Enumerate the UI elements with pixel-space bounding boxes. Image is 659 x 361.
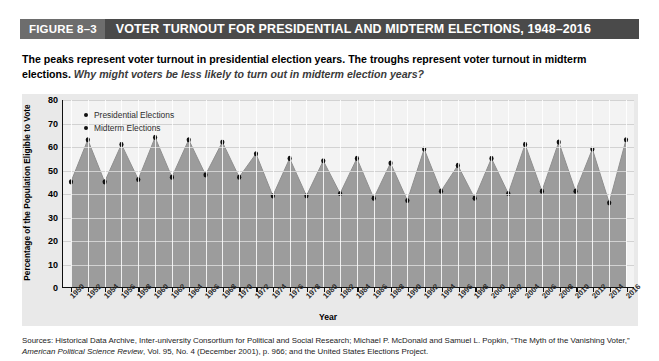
- gridline-50: [63, 171, 634, 172]
- vgridline-1994: [441, 100, 442, 287]
- y-tick-10: 10: [36, 260, 58, 270]
- y-axis-tick-labels: 80706050403020100: [36, 94, 58, 290]
- vgridline-2002: [508, 100, 509, 287]
- figure-header-bar: FIGURE 8–3 VOTER TURNOUT FOR PRESIDENTIA…: [20, 19, 639, 39]
- vgridline-2016: [626, 100, 627, 287]
- chart-legend: Presidential ElectionsMidterm Elections: [84, 108, 174, 134]
- figure-caption: The peaks represent voter turnout in pre…: [22, 52, 636, 82]
- vgridline-1966: [206, 100, 207, 287]
- gridline-10: [63, 265, 634, 266]
- y-tick-80: 80: [36, 95, 58, 105]
- figure-title: VOTER TURNOUT FOR PRESIDENTIAL AND MIDTE…: [105, 19, 591, 39]
- y-tick-60: 60: [36, 142, 58, 152]
- caption-question: Why might voters be less likely to turn …: [74, 68, 424, 80]
- legend-item-midterm: Midterm Elections: [84, 121, 174, 134]
- vgridline-1950: [71, 100, 72, 287]
- source-suffix: , Vol. 95, No. 4 (December 2001), p. 966…: [143, 347, 428, 356]
- y-tick-50: 50: [36, 166, 58, 176]
- source-journal: American Political Science Review: [22, 347, 143, 356]
- vgridline-1976: [290, 100, 291, 287]
- figure-page: FIGURE 8–3 VOTER TURNOUT FOR PRESIDENTIA…: [0, 0, 659, 361]
- vgridline-1998: [475, 100, 476, 287]
- chart-container: Percentage of the Population Eligible to…: [22, 94, 638, 326]
- legend-dot-icon: [84, 126, 88, 130]
- legend-item-presidential: Presidential Elections: [84, 108, 174, 121]
- vgridline-1972: [256, 100, 257, 287]
- vgridline-2008: [559, 100, 560, 287]
- vgridline-1968: [222, 100, 223, 287]
- y-axis-title-text: Percentage of the Population Eligible to…: [23, 104, 32, 280]
- vgridline-1974: [273, 100, 274, 287]
- legend-dot-icon: [84, 113, 88, 117]
- y-tick-40: 40: [36, 189, 58, 199]
- gridline-30: [63, 218, 634, 219]
- y-tick-0: 0: [36, 283, 58, 293]
- y-tick-70: 70: [36, 119, 58, 129]
- vgridline-2004: [525, 100, 526, 287]
- vgridline-2006: [542, 100, 543, 287]
- vgridline-1984: [357, 100, 358, 287]
- source-note: Sources: Historical Data Archive, Inter-…: [22, 335, 638, 357]
- y-axis-title: Percentage of the Population Eligible to…: [20, 94, 34, 290]
- y-tick-20: 20: [36, 236, 58, 246]
- vgridline-1992: [424, 100, 425, 287]
- vgridline-1988: [391, 100, 392, 287]
- vgridline-2000: [491, 100, 492, 287]
- vgridline-2012: [592, 100, 593, 287]
- vgridline-1970: [239, 100, 240, 287]
- vgridline-1982: [340, 100, 341, 287]
- legend-label: Midterm Elections: [94, 123, 161, 133]
- vgridline-1980: [323, 100, 324, 287]
- figure-number-tag: FIGURE 8–3: [20, 19, 105, 39]
- vgridline-1978: [306, 100, 307, 287]
- vgridline-1986: [374, 100, 375, 287]
- vgridline-1996: [458, 100, 459, 287]
- vgridline-1990: [407, 100, 408, 287]
- y-tick-30: 30: [36, 213, 58, 223]
- source-prefix: Sources: Historical Data Archive, Inter-…: [22, 336, 630, 345]
- vgridline-1964: [189, 100, 190, 287]
- vgridline-2010: [576, 100, 577, 287]
- gridline-40: [63, 194, 634, 195]
- legend-label: Presidential Elections: [94, 110, 174, 120]
- gridline-60: [63, 147, 634, 148]
- gridline-80: [63, 100, 634, 101]
- x-axis-title: Year: [22, 312, 634, 322]
- gridline-20: [63, 241, 634, 242]
- vgridline-2014: [609, 100, 610, 287]
